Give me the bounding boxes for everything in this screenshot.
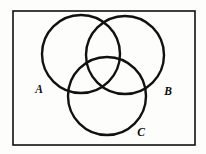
venn-diagram-canvas: A B C [0, 0, 206, 154]
circle-set-a [42, 15, 120, 93]
set-label-b: B [163, 85, 172, 97]
universal-set-rectangle [13, 11, 195, 145]
circle-set-b [86, 16, 164, 94]
venn-diagram-figure: A B C [0, 0, 206, 154]
set-label-c: C [137, 126, 145, 138]
circle-set-c [68, 57, 146, 135]
set-label-a: A [34, 83, 43, 95]
